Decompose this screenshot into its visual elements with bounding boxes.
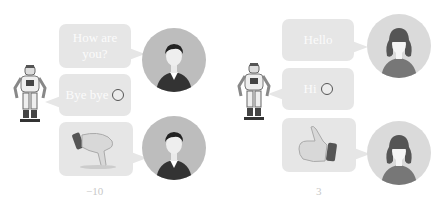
bubble-text: Bye bye: [66, 87, 109, 103]
male-avatar: [142, 116, 206, 180]
human-bubble-how-are-you: How are you?: [59, 24, 131, 68]
human-bubble-thumbs-up: [282, 118, 356, 172]
bubble-text: Hi: [304, 81, 317, 97]
robot-bubble-bye-bye: Bye bye: [59, 74, 131, 116]
bubble-text: Hello: [304, 32, 333, 48]
bubble-text-line2: you?: [82, 46, 107, 62]
human-bubble-thumbs-down: [59, 122, 133, 176]
thumbs-up-icon: [291, 123, 347, 167]
score-label: −10: [86, 185, 103, 197]
female-avatar: [367, 121, 431, 185]
robot-icon: [236, 62, 272, 124]
smiley-icon: [112, 89, 124, 101]
score-label: 3: [316, 185, 322, 197]
smiley-icon: [321, 83, 333, 95]
left-panel: How are you? Bye bye: [0, 0, 223, 209]
female-avatar: [367, 14, 431, 78]
robot-icon: [12, 64, 48, 126]
robot-bubble-hi: Hi: [282, 68, 354, 110]
bubble-text-line1: How are: [73, 30, 117, 46]
thumbs-down-icon: [68, 127, 124, 171]
human-bubble-hello: Hello: [282, 19, 354, 61]
right-panel: Hello Hi 3: [224, 0, 447, 209]
male-avatar: [142, 28, 206, 92]
